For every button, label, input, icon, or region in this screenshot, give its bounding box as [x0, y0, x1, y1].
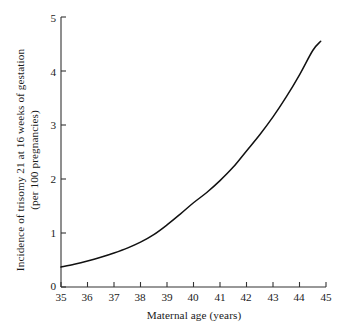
axis-lines [61, 17, 326, 287]
plot-area [0, 0, 340, 336]
chart-figure: Incidence of trisomy 21 at 16 weeks of g… [0, 0, 340, 336]
data-curve [61, 41, 321, 267]
axis-ticks [61, 17, 326, 287]
